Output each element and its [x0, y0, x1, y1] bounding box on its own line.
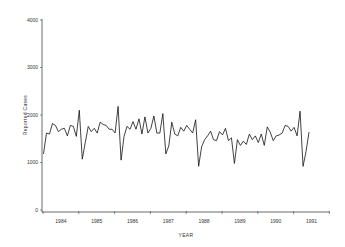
- x-tick-label: 1987: [163, 218, 174, 224]
- x-tick-label: 1984: [55, 218, 66, 224]
- y-tick-label: 3000: [27, 64, 38, 70]
- line-chart: 01000200030004000 1984198519861987198819…: [0, 0, 345, 247]
- x-tick-label: 1991: [306, 218, 317, 224]
- x-tick-label: 1989: [234, 218, 245, 224]
- y-tick-label: 1000: [27, 159, 38, 165]
- x-tick-label: 1988: [199, 218, 210, 224]
- series-line: [44, 106, 310, 166]
- x-ticks: 19841985198619871988198919901991: [43, 211, 329, 224]
- y-tick-label: 2000: [27, 112, 38, 118]
- x-tick-label: 1986: [127, 218, 138, 224]
- y-axis-label: Reported Cases: [22, 95, 28, 136]
- x-tick-label: 1985: [91, 218, 102, 224]
- y-tick-label: 0: [35, 207, 38, 213]
- x-axis-label: YEAR: [179, 232, 194, 238]
- y-ticks: 01000200030004000: [27, 17, 42, 213]
- y-tick-label: 4000: [27, 17, 38, 23]
- x-tick-label: 1990: [270, 218, 281, 224]
